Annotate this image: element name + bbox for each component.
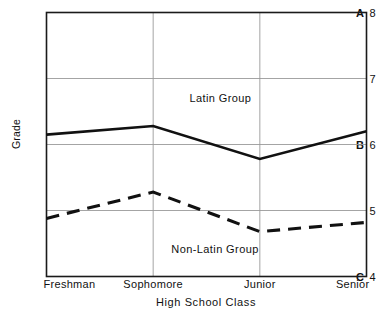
series-lines xyxy=(47,126,367,232)
series-line-0 xyxy=(47,126,367,159)
chart-figure: Grade High School Class A87B65C4 Freshma… xyxy=(0,0,382,315)
plot-area xyxy=(0,0,382,315)
series-line-1 xyxy=(47,192,367,232)
